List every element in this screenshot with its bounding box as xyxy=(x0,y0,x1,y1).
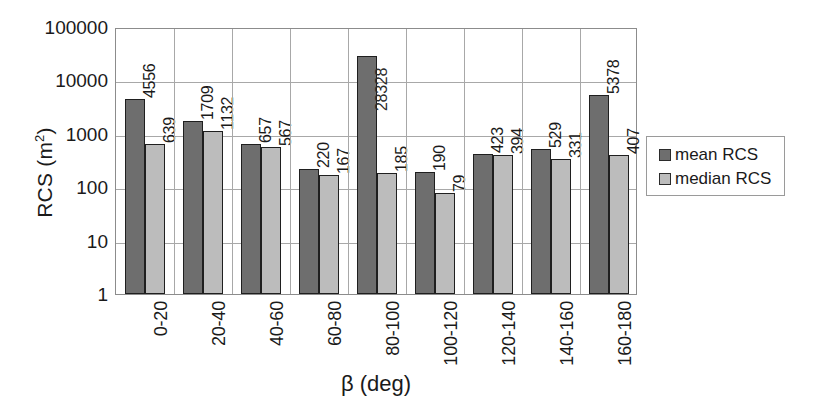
x-axis-tick-label: 60-80 xyxy=(326,301,344,346)
x-axis-tick-label: 160-180 xyxy=(616,301,634,366)
x-axis-tick-label: 100-120 xyxy=(442,301,460,366)
legend-label-median: median RCS xyxy=(675,169,771,189)
y-axis-tick-label: 1000 xyxy=(20,125,108,144)
x-axis-title: β (deg) xyxy=(115,371,637,397)
legend-entry-mean-rcs: mean RCS xyxy=(659,145,758,165)
x-axis-tick-label: 0-20 xyxy=(152,301,170,336)
x-axis-tick-label: 140-160 xyxy=(558,301,576,366)
x-axis-tick-label: 40-60 xyxy=(268,301,286,346)
y-axis-tick-label: 100000 xyxy=(20,18,108,37)
x-axis-tick-label: 20-40 xyxy=(210,301,228,346)
rcs-bar-chart: RCS (m2) 100000100001000100101 455663917… xyxy=(0,0,821,416)
x-axis-tick-label: 80-100 xyxy=(384,301,402,356)
legend-swatch-median-icon xyxy=(659,173,671,185)
legend-entry-median-rcs: median RCS xyxy=(659,169,771,189)
y-axis-tick-label: 1 xyxy=(20,285,108,304)
legend-swatch-mean-icon xyxy=(659,149,671,161)
y-axis-tick-label: 10000 xyxy=(20,71,108,90)
y-axis-tick-labels: 100000100001000100101 xyxy=(20,0,108,416)
y-axis-tick-label: 10 xyxy=(20,232,108,251)
x-axis-tick-label: 120-140 xyxy=(500,301,518,366)
y-axis-tick-label: 100 xyxy=(20,178,108,197)
x-axis-tick-labels: 0-2020-4040-6060-8080-100100-120120-1401… xyxy=(115,0,637,416)
legend: mean RCS median RCS xyxy=(646,136,785,196)
legend-label-mean: mean RCS xyxy=(675,145,758,165)
